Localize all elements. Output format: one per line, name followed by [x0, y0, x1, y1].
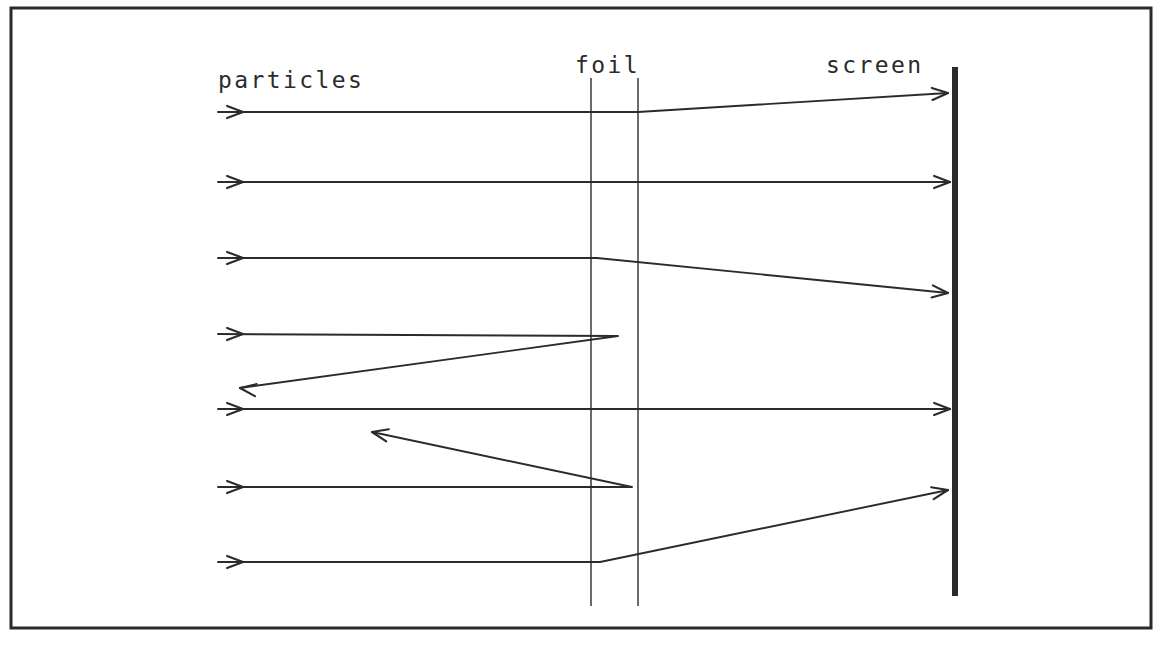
- ray-1-small-deflection-up: [218, 93, 948, 112]
- screen-label: screen: [826, 52, 923, 78]
- ray-6-backscattered-up: [218, 432, 632, 487]
- ray-3-small-deflection-down: [218, 258, 948, 293]
- scattering-diagram: particlesfoilscreen: [0, 0, 1159, 666]
- particles-label: particles: [218, 67, 364, 93]
- diagram-canvas: particlesfoilscreen: [0, 0, 1159, 666]
- figure-frame: [11, 8, 1151, 628]
- ray-7-large-deflection-up: [218, 490, 948, 562]
- ray-4-backscattered-down: [218, 334, 618, 388]
- foil-label: foil: [575, 52, 640, 78]
